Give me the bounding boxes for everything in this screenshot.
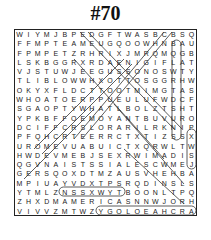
grid-cell[interactable]: T: [178, 67, 187, 76]
grid-cell[interactable]: W: [169, 67, 178, 76]
grid-cell[interactable]: E: [133, 160, 142, 169]
grid-cell[interactable]: D: [15, 123, 24, 132]
grid-cell[interactable]: I: [24, 207, 33, 216]
grid-cell[interactable]: C: [24, 123, 33, 132]
grid-cell[interactable]: C: [115, 142, 124, 151]
grid-cell[interactable]: E: [24, 169, 33, 178]
grid-cell[interactable]: M: [96, 169, 105, 178]
grid-cell[interactable]: I: [151, 132, 160, 141]
grid-cell[interactable]: E: [87, 67, 96, 76]
grid-cell[interactable]: T: [69, 132, 78, 141]
grid-cell[interactable]: P: [24, 49, 33, 58]
grid-cell[interactable]: L: [124, 160, 133, 169]
grid-cell[interactable]: N: [160, 39, 169, 48]
grid-cell[interactable]: U: [105, 95, 114, 104]
grid-cell[interactable]: I: [178, 151, 187, 160]
grid-cell[interactable]: A: [115, 123, 124, 132]
grid-cell[interactable]: D: [87, 30, 96, 39]
grid-cell[interactable]: U: [187, 39, 196, 48]
grid-cell[interactable]: O: [33, 142, 42, 151]
grid-cell[interactable]: U: [151, 114, 160, 123]
grid-cell[interactable]: E: [78, 30, 87, 39]
grid-cell[interactable]: A: [51, 160, 60, 169]
grid-cell[interactable]: D: [33, 151, 42, 160]
grid-cell[interactable]: H: [87, 104, 96, 113]
grid-cell[interactable]: B: [124, 188, 133, 197]
grid-cell[interactable]: U: [15, 142, 24, 151]
grid-cell[interactable]: F: [15, 39, 24, 48]
grid-cell[interactable]: W: [124, 30, 133, 39]
grid-cell[interactable]: G: [160, 86, 169, 95]
grid-cell[interactable]: R: [96, 132, 105, 141]
grid-cell[interactable]: S: [142, 30, 151, 39]
grid-cell[interactable]: F: [24, 39, 33, 48]
grid-cell[interactable]: A: [115, 114, 124, 123]
grid-cell[interactable]: P: [24, 179, 33, 188]
grid-cell[interactable]: T: [124, 142, 133, 151]
grid-cell[interactable]: C: [51, 132, 60, 141]
grid-cell[interactable]: L: [51, 76, 60, 85]
grid-cell[interactable]: W: [69, 76, 78, 85]
grid-cell[interactable]: M: [42, 142, 51, 151]
grid-cell[interactable]: O: [133, 39, 142, 48]
grid-cell[interactable]: B: [42, 58, 51, 67]
grid-cell[interactable]: K: [160, 123, 169, 132]
grid-cell[interactable]: E: [69, 151, 78, 160]
grid-cell[interactable]: S: [115, 67, 124, 76]
grid-cell[interactable]: W: [78, 104, 87, 113]
grid-cell[interactable]: Z: [15, 197, 24, 206]
grid-cell[interactable]: Q: [187, 30, 196, 39]
grid-cell[interactable]: D: [78, 169, 87, 178]
grid-cell[interactable]: I: [105, 160, 114, 169]
grid-cell[interactable]: W: [151, 197, 160, 206]
grid-cell[interactable]: G: [151, 76, 160, 85]
grid-cell[interactable]: Q: [151, 49, 160, 58]
grid-cell[interactable]: B: [42, 114, 51, 123]
grid-cell[interactable]: W: [60, 67, 69, 76]
grid-cell[interactable]: A: [178, 39, 187, 48]
grid-cell[interactable]: W: [187, 76, 196, 85]
grid-cell[interactable]: L: [42, 188, 51, 197]
grid-cell[interactable]: U: [124, 95, 133, 104]
grid-cell[interactable]: G: [178, 49, 187, 58]
grid-cell[interactable]: E: [60, 39, 69, 48]
grid-cell[interactable]: E: [142, 207, 151, 216]
grid-cell[interactable]: I: [60, 160, 69, 169]
grid-cell[interactable]: A: [69, 39, 78, 48]
grid-cell[interactable]: R: [124, 151, 133, 160]
grid-cell[interactable]: O: [15, 86, 24, 95]
grid-cell[interactable]: T: [133, 114, 142, 123]
grid-cell[interactable]: Q: [133, 179, 142, 188]
grid-cell[interactable]: M: [60, 151, 69, 160]
grid-cell[interactable]: M: [60, 207, 69, 216]
grid-cell[interactable]: A: [151, 207, 160, 216]
grid-cell[interactable]: W: [142, 39, 151, 48]
grid-cell[interactable]: I: [178, 123, 187, 132]
grid-cell[interactable]: B: [78, 151, 87, 160]
grid-cell[interactable]: G: [160, 76, 169, 85]
grid-cell[interactable]: S: [69, 160, 78, 169]
grid-cell[interactable]: U: [69, 142, 78, 151]
grid-cell[interactable]: B: [42, 76, 51, 85]
grid-cell[interactable]: T: [115, 30, 124, 39]
grid-cell[interactable]: H: [87, 76, 96, 85]
grid-cell[interactable]: G: [24, 160, 33, 169]
grid-cell[interactable]: O: [133, 76, 142, 85]
grid-cell[interactable]: Y: [105, 114, 114, 123]
grid-cell[interactable]: F: [105, 30, 114, 39]
grid-cell[interactable]: D: [42, 197, 51, 206]
grid-cell[interactable]: A: [115, 160, 124, 169]
grid-cell[interactable]: T: [96, 179, 105, 188]
grid-cell[interactable]: O: [96, 114, 105, 123]
grid-cell[interactable]: W: [15, 95, 24, 104]
grid-cell[interactable]: R: [142, 49, 151, 58]
grid-cell[interactable]: Q: [33, 132, 42, 141]
grid-cell[interactable]: G: [105, 207, 114, 216]
grid-cell[interactable]: P: [178, 188, 187, 197]
grid-cell[interactable]: Y: [33, 30, 42, 39]
grid-cell[interactable]: R: [78, 95, 87, 104]
grid-cell[interactable]: B: [142, 114, 151, 123]
grid-cell[interactable]: O: [151, 67, 160, 76]
grid-cell[interactable]: G: [96, 30, 105, 39]
grid-cell[interactable]: D: [169, 151, 178, 160]
